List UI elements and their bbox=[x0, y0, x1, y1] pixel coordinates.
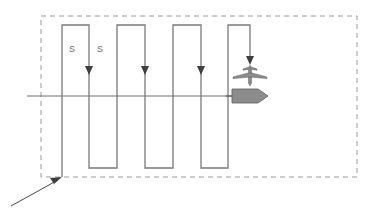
search-pattern-figure: S S bbox=[0, 0, 371, 214]
leg-arrowhead-3 bbox=[197, 66, 205, 75]
leg-arrowhead-4 bbox=[246, 56, 254, 65]
ship-icon bbox=[226, 89, 268, 103]
ship-hull bbox=[232, 89, 268, 103]
entry-arrow-shaft bbox=[11, 180, 58, 206]
diagram-canvas: S S bbox=[0, 0, 371, 214]
leg-arrowhead-1 bbox=[85, 66, 93, 75]
leg-arrowhead-2 bbox=[141, 66, 149, 75]
entry-arrow bbox=[11, 177, 62, 206]
track-spacing-label-1: S bbox=[69, 44, 75, 54]
track-spacing-label-2: S bbox=[97, 44, 103, 54]
serpentine-track-path bbox=[62, 25, 250, 177]
aircraft-icon bbox=[233, 65, 267, 86]
